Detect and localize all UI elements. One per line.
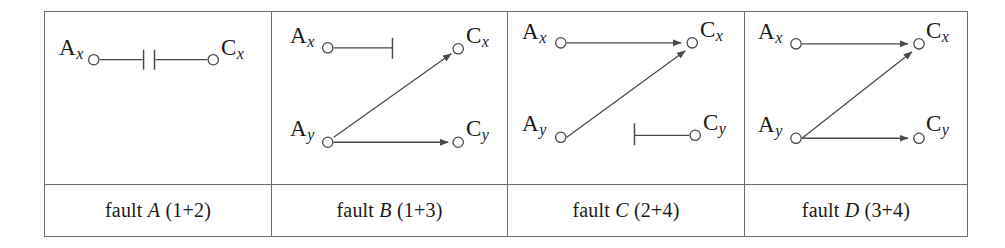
diagram-fault-c: Ax Ay Cx Cy — [508, 12, 744, 185]
node-ax — [323, 43, 333, 53]
node-cx — [208, 55, 218, 65]
caption-fault-d: fault D (3+4) — [802, 199, 910, 222]
node-ax — [556, 38, 566, 48]
caption-cell-fault-d: fault D (3+4) — [745, 185, 967, 236]
node-ax — [791, 39, 801, 49]
node-ax — [89, 55, 99, 65]
caption-cell-fault-c: fault C (2+4) — [508, 185, 744, 236]
node-ay — [323, 137, 333, 147]
panel-fault-c: Ax Ay Cx Cy fault C (2+4) — [508, 12, 745, 236]
node-label-ax: Ax — [522, 20, 546, 46]
node-ay — [556, 132, 566, 142]
diagram-fault-a: Ax Cx — [45, 12, 271, 185]
node-label-ay: Ay — [758, 113, 782, 139]
node-cy — [690, 130, 700, 140]
node-label-cx: Cx — [466, 24, 489, 50]
node-label-cy: Cy — [466, 117, 489, 143]
node-ay — [791, 133, 801, 143]
edge-ay-cx — [334, 54, 452, 138]
caption-cell-fault-a: fault A (1+2) — [45, 185, 271, 236]
node-cx — [687, 38, 697, 48]
caption-fault-b: fault B (1+3) — [336, 199, 442, 222]
node-label-cy: Cy — [926, 112, 949, 138]
edge-ay-cx — [802, 52, 912, 138]
node-label-ax: Ax — [290, 24, 314, 50]
node-label-ax: Ax — [59, 36, 83, 62]
node-label-ax: Ax — [758, 20, 782, 46]
node-cx — [914, 39, 924, 49]
node-label-ay: Ay — [290, 117, 314, 143]
panel-table: Ax Cx fault A (1+2) — [44, 11, 968, 237]
node-label-cx: Cx — [700, 18, 723, 44]
panel-fault-d: Ax Ay Cx Cy fault D (3+4) — [745, 12, 967, 236]
node-label-cx: Cx — [926, 19, 949, 45]
node-cx — [453, 44, 463, 54]
node-label-cy: Cy — [703, 111, 726, 137]
panel-fault-b: Ax Ay Cx Cy fault B (1+3) — [272, 12, 508, 236]
node-cy — [914, 133, 924, 143]
caption-fault-c: fault C (2+4) — [572, 199, 679, 222]
caption-cell-fault-b: fault B (1+3) — [272, 185, 507, 236]
caption-fault-a: fault A (1+2) — [105, 199, 211, 222]
node-label-cx: Cx — [221, 36, 244, 62]
node-label-ay: Ay — [522, 112, 546, 138]
diagram-fault-d: Ax Ay Cx Cy — [745, 12, 967, 185]
node-cy — [453, 137, 463, 147]
fault-configuration-figure: Ax Cx fault A (1+2) — [0, 0, 1005, 248]
diagram-fault-b: Ax Ay Cx Cy — [272, 12, 507, 185]
panel-fault-a: Ax Cx fault A (1+2) — [45, 12, 272, 236]
edge-ay-cx — [567, 51, 685, 137]
